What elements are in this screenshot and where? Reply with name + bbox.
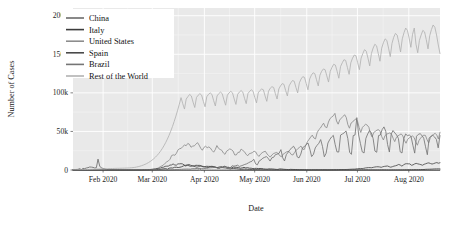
y-tick-label: 100k <box>53 88 68 97</box>
x-tick-label: Jun 2020 <box>293 175 321 184</box>
chart-legend: ChinaItalyUnited StatesSpainBrazilRest o… <box>61 9 174 81</box>
x-tick-label: Mar 2020 <box>137 175 167 184</box>
legend-label-italy: Italy <box>89 26 105 35</box>
legend-label-rest-of-the-world: Rest of the World <box>89 72 149 81</box>
y-tick-label: 0 <box>64 166 68 175</box>
legend-label-brazil: Brazil <box>89 60 110 69</box>
x-tick-label: May 2020 <box>239 175 270 184</box>
x-tick-label: Feb 2020 <box>89 175 118 184</box>
chart-figure: 050k100k150k200k Feb 2020Mar 2020Apr 202… <box>0 0 461 233</box>
x-axis-title: Date <box>248 204 264 213</box>
legend-label-spain: Spain <box>89 49 109 58</box>
x-tick-label: Aug 2020 <box>394 175 424 184</box>
y-tick-label: 50k <box>57 127 69 136</box>
x-tick-label: Apr 2020 <box>190 175 219 184</box>
y-axis-title: Number of Cases <box>7 61 16 118</box>
line-chart: 050k100k150k200k Feb 2020Mar 2020Apr 202… <box>0 0 461 233</box>
legend-label-united-states: United States <box>89 37 134 46</box>
legend-label-china: China <box>89 14 109 23</box>
x-tick-label: Jul 2020 <box>344 175 370 184</box>
